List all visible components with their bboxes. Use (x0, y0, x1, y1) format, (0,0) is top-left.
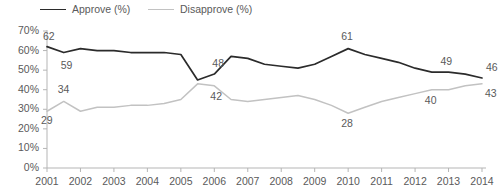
x-axis-tick-label: 2010 (331, 175, 365, 187)
x-axis-tick-label: 2009 (298, 175, 332, 187)
y-axis-tick-label: 10% (5, 141, 39, 153)
x-axis-tick-label: 2011 (365, 175, 399, 187)
data-point-label: 48 (212, 57, 224, 69)
y-axis-tick-label: 0% (5, 161, 39, 173)
legend-swatch-approve-icon (40, 9, 66, 10)
y-axis-tick-label: 30% (5, 102, 39, 114)
x-axis-tick-label: 2012 (398, 175, 432, 187)
series-line-approve (47, 47, 482, 80)
x-axis-tick-label: 2007 (231, 175, 265, 187)
legend-label-approve: Approve (%) (72, 3, 130, 15)
data-point-label: 59 (61, 59, 73, 71)
y-axis-tick-label: 60% (5, 44, 39, 56)
x-axis-tick-label: 2005 (164, 175, 198, 187)
data-point-label: 40 (425, 94, 437, 106)
y-axis-tick-label: 50% (5, 63, 39, 75)
data-point-label: 46 (486, 61, 498, 73)
x-axis-tick-label: 2008 (264, 175, 298, 187)
y-axis-tick-label: 40% (5, 83, 39, 95)
data-point-label: 62 (43, 30, 55, 42)
x-axis-tick-label: 2002 (63, 175, 97, 187)
x-axis-tick-label: 2003 (97, 175, 131, 187)
x-axis-tick-label: 2014 (465, 175, 499, 187)
data-point-label: 49 (441, 55, 453, 67)
legend-item-approve: Approve (%) (40, 3, 130, 15)
chart-canvas (0, 22, 492, 193)
data-point-label: 43 (485, 87, 497, 99)
data-point-label: 42 (210, 90, 222, 102)
data-point-label: 28 (341, 117, 353, 129)
legend-swatch-disapprove-icon (148, 9, 174, 10)
chart-legend: Approve (%) Disapprove (%) (0, 0, 492, 22)
y-axis-tick-label: 70% (5, 24, 39, 36)
data-point-label: 29 (41, 114, 53, 126)
y-axis-tick-label: 20% (5, 122, 39, 134)
data-point-label: 34 (58, 83, 70, 95)
legend-item-disapprove: Disapprove (%) (148, 3, 252, 15)
x-axis-tick-label: 2013 (432, 175, 466, 187)
legend-label-disapprove: Disapprove (%) (180, 3, 252, 15)
series-line-disapprove (47, 84, 482, 113)
plot-area: 70%60%50%40%30%20%10%0% 2001200220032004… (0, 22, 492, 193)
x-axis-tick-label: 2001 (30, 175, 64, 187)
x-axis-tick-label: 2004 (130, 175, 164, 187)
x-axis-tick-label: 2006 (197, 175, 231, 187)
data-point-label: 61 (341, 30, 353, 42)
